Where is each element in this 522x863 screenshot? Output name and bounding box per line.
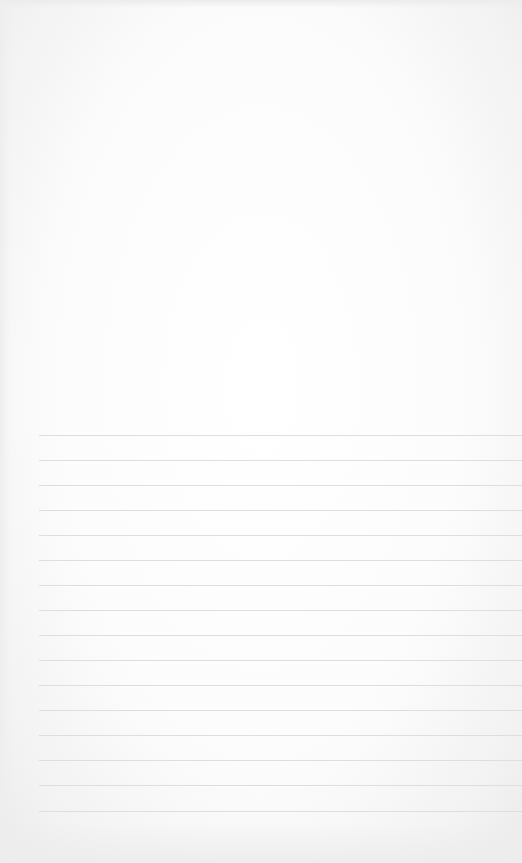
- ruled-line: [39, 535, 522, 536]
- ruled-line: [39, 435, 522, 436]
- ruled-line: [39, 685, 522, 686]
- page-left-edge-shadow: [0, 0, 10, 863]
- ruled-line: [39, 811, 522, 812]
- ruled-line: [39, 560, 522, 561]
- ruled-line: [39, 785, 522, 786]
- lined-paper-page: [0, 0, 522, 863]
- ruled-line: [39, 660, 522, 661]
- ruled-line: [39, 760, 522, 761]
- ruled-line: [39, 610, 522, 611]
- ruled-line: [39, 585, 522, 586]
- ruled-line: [39, 510, 522, 511]
- ruled-line: [39, 485, 522, 486]
- ruled-line: [39, 735, 522, 736]
- ruled-line: [39, 635, 522, 636]
- ruled-line: [39, 710, 522, 711]
- ruled-line: [39, 460, 522, 461]
- ruled-lines-area: [39, 0, 522, 863]
